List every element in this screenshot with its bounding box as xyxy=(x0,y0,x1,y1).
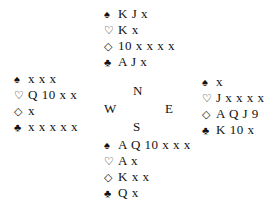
south-hearts-cards: A x xyxy=(118,153,138,168)
north-diamonds-cards: 10 x x x x xyxy=(118,38,175,53)
west-hearts-cards: Q 10 x x xyxy=(28,87,77,102)
south-diamonds-cards: K x x xyxy=(118,169,149,184)
north-hearts: ♡K x xyxy=(104,22,175,38)
north-diamonds: ◇10 x x x x xyxy=(104,38,175,54)
compass-east: E xyxy=(165,101,173,117)
club-icon: ♣ xyxy=(104,185,118,201)
heart-icon: ♡ xyxy=(104,22,118,38)
diamond-icon: ◇ xyxy=(104,38,118,54)
spade-icon: ♠ xyxy=(104,137,118,153)
west-hand: ♠x x x ♡Q 10 x x ◇x ♣x x x x x xyxy=(14,71,78,135)
diamond-icon: ◇ xyxy=(202,106,216,122)
east-hearts: ♡J x x x x xyxy=(202,90,265,106)
club-icon: ♣ xyxy=(202,122,216,138)
east-spades: ♠x xyxy=(202,74,265,90)
north-hearts-cards: K x xyxy=(118,22,139,37)
north-spades: ♠K J x xyxy=(104,6,175,22)
west-clubs: ♣x x x x x xyxy=(14,119,78,135)
north-hand: ♠K J x ♡K x ◇10 x x x x ♣A J x xyxy=(104,6,175,70)
west-spades-cards: x x x xyxy=(28,71,57,86)
spade-icon: ♠ xyxy=(202,74,216,90)
diamond-icon: ◇ xyxy=(104,169,118,185)
east-clubs-cards: K 10 x xyxy=(216,122,254,137)
compass-west: W xyxy=(104,101,116,117)
club-icon: ♣ xyxy=(104,54,118,70)
spade-icon: ♠ xyxy=(104,6,118,22)
spade-icon: ♠ xyxy=(14,71,28,87)
south-hand: ♠A Q 10 x x x ♡A x ◇K x x ♣Q x xyxy=(104,137,191,201)
west-diamonds-cards: x xyxy=(28,103,35,118)
east-clubs: ♣K 10 x xyxy=(202,122,265,138)
south-clubs-cards: Q x xyxy=(118,185,139,200)
compass-north: N xyxy=(133,83,142,99)
south-hearts: ♡A x xyxy=(104,153,191,169)
compass-south: S xyxy=(133,119,140,135)
club-icon: ♣ xyxy=(14,119,28,135)
east-diamonds-cards: A Q J 9 xyxy=(216,106,259,121)
diamond-icon: ◇ xyxy=(14,103,28,119)
heart-icon: ♡ xyxy=(202,90,216,106)
heart-icon: ♡ xyxy=(14,87,28,103)
south-clubs: ♣Q x xyxy=(104,185,191,201)
east-spades-cards: x xyxy=(216,74,223,89)
heart-icon: ♡ xyxy=(104,153,118,169)
west-diamonds: ◇x xyxy=(14,103,78,119)
north-spades-cards: K J x xyxy=(118,6,148,21)
east-diamonds: ◇A Q J 9 xyxy=(202,106,265,122)
south-spades-cards: A Q 10 x x x xyxy=(118,137,191,152)
east-hearts-cards: J x x x x xyxy=(216,90,265,105)
west-hearts: ♡Q 10 x x xyxy=(14,87,78,103)
east-hand: ♠x ♡J x x x x ◇A Q J 9 ♣K 10 x xyxy=(202,74,265,138)
north-clubs-cards: A J x xyxy=(118,54,147,69)
north-clubs: ♣A J x xyxy=(104,54,175,70)
west-spades: ♠x x x xyxy=(14,71,78,87)
west-clubs-cards: x x x x x xyxy=(28,119,78,134)
south-spades: ♠A Q 10 x x x xyxy=(104,137,191,153)
south-diamonds: ◇K x x xyxy=(104,169,191,185)
